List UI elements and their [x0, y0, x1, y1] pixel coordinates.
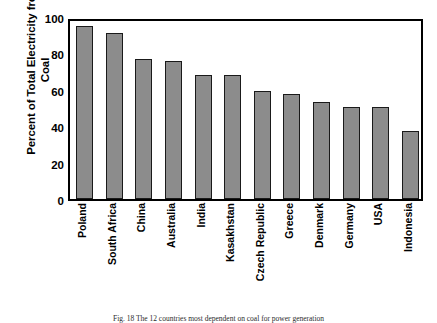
x-axis-tick-label: Denmark — [314, 203, 325, 248]
x-axis-tick-label-slot: Denmark — [311, 203, 327, 303]
y-axis-tick-label: 100 — [28, 14, 64, 25]
bars-layer — [70, 21, 421, 199]
x-axis-tick-label-slot: China — [134, 203, 150, 303]
bar — [343, 107, 360, 199]
x-axis-tick-label-slot: South Africa — [104, 203, 120, 303]
bar — [224, 75, 241, 199]
x-axis-tick-label: Czech Republic — [255, 203, 266, 281]
x-axis-tick-label-slot: USA — [371, 203, 387, 303]
x-axis-tick-label: South Africa — [107, 203, 118, 265]
x-axis-tick-label: Australia — [166, 203, 177, 248]
x-axis-tick-label: India — [196, 203, 207, 228]
y-axis-tick-label: 40 — [28, 123, 64, 134]
x-axis-tick-label-slot: Germany — [341, 203, 357, 303]
x-axis-tick-label-slot: Greece — [282, 203, 298, 303]
bar — [283, 94, 300, 199]
bar — [165, 61, 182, 199]
x-axis-tick-label-slot: Czech Republic — [252, 203, 268, 303]
x-axis-tick-label: Kasakhstan — [225, 203, 236, 262]
bar — [254, 91, 271, 199]
y-axis-tick-label: 20 — [28, 159, 64, 170]
x-axis-tick-label: USA — [373, 203, 384, 225]
bar — [402, 131, 419, 199]
x-axis-tick-label: Greece — [284, 203, 295, 239]
x-axis-tick-label: Indonesia — [403, 203, 414, 252]
bar — [135, 59, 152, 199]
coal-electricity-bar-chart-figure: Percent of Total Electricity from Coal 0… — [0, 0, 437, 323]
x-axis-tick-labels: PolandSouth AfricaChinaAustraliaIndiaKas… — [68, 203, 423, 303]
y-axis-tick-label: 60 — [28, 86, 64, 97]
x-axis-tick-label: Germany — [344, 203, 355, 249]
x-axis-tick-label-slot: India — [193, 203, 209, 303]
x-axis-tick-label: Poland — [77, 203, 88, 238]
bar — [372, 107, 389, 199]
bar — [313, 102, 330, 199]
figure-caption: Fig. 18 The 12 countries most dependent … — [0, 314, 437, 323]
y-axis-tick-label: 0 — [28, 196, 64, 207]
x-axis-tick-label-slot: Poland — [75, 203, 91, 303]
bar — [106, 33, 123, 199]
bar — [76, 26, 93, 199]
x-axis-tick-label-slot: Australia — [164, 203, 180, 303]
x-axis-tick-label-slot: Kasakhstan — [223, 203, 239, 303]
plot-area — [68, 19, 423, 201]
x-axis-tick-label-slot: Indonesia — [400, 203, 416, 303]
x-axis-tick-label: China — [136, 203, 147, 232]
y-axis-tick-labels: 020406080100 — [28, 14, 64, 206]
y-axis-tick-label: 80 — [28, 50, 64, 61]
bar — [195, 75, 212, 199]
